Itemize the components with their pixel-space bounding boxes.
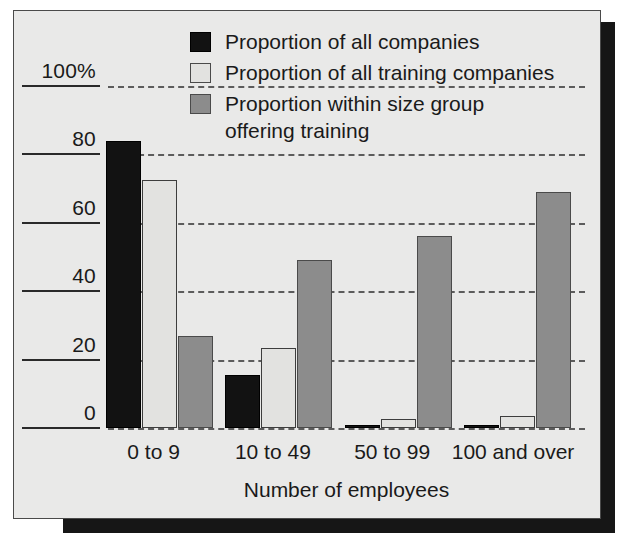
- legend-item-proportion-of-all-training-companies: Proportion of all training companies: [190, 59, 554, 88]
- legend-swatch-series-2: [190, 63, 211, 83]
- y-axis-tick-80: 80: [22, 127, 100, 155]
- x-axis-tick-label-50-to-99: 50 to 99: [333, 440, 452, 464]
- x-axis-title: Number of employees: [108, 478, 585, 502]
- chart-legend: Proportion of all companies Proportion o…: [190, 28, 554, 145]
- gridline-80: [108, 154, 585, 156]
- y-axis-tick-label: 100%: [22, 59, 100, 85]
- y-axis-tick-rule: [22, 427, 100, 429]
- legend-item-proportion-of-all-companies: Proportion of all companies: [190, 28, 554, 57]
- bar-50-to-99-series-2: [381, 419, 416, 428]
- y-axis-tick-label: 80: [22, 127, 100, 153]
- bar-10-to-49-series-2: [261, 348, 296, 428]
- x-axis-tick-label-0-to-9: 0 to 9: [94, 440, 213, 464]
- bar-0-to-9-series-1: [106, 141, 141, 428]
- y-axis-tick-label: 20: [22, 333, 100, 359]
- legend-item-proportion-within-size-group-offering-training: Proportion within size group: [190, 90, 554, 119]
- y-axis-tick-rule: [22, 290, 100, 292]
- y-axis-tick-label: 0: [22, 401, 100, 427]
- legend-label-series-3: Proportion within size group: [225, 90, 484, 118]
- bar-0-to-9-series-3: [178, 336, 213, 428]
- y-axis-tick-label: 60: [22, 196, 100, 222]
- bar-10-to-49-series-3: [297, 260, 332, 428]
- bar-100-and-over-series-3: [536, 192, 571, 428]
- y-axis-tick-60: 60: [22, 196, 100, 224]
- bar-chart-figure: 100%8060402000 to 910 to 4950 to 99100 a…: [0, 0, 624, 543]
- legend-swatch-series-3: [190, 94, 211, 114]
- y-axis-tick-rule: [22, 222, 100, 224]
- bar-100-and-over-series-2: [500, 416, 535, 428]
- y-axis-tick-20: 20: [22, 333, 100, 361]
- y-axis-tick-100pct: 100%: [22, 59, 100, 87]
- y-axis-tick-rule: [22, 85, 100, 87]
- legend-label-series-2: Proportion of all training companies: [225, 59, 554, 87]
- bar-10-to-49-series-1: [225, 375, 260, 428]
- y-axis-tick-40: 40: [22, 264, 100, 292]
- y-axis-tick-rule: [22, 153, 100, 155]
- y-axis-tick-rule: [22, 359, 100, 361]
- legend-swatch-series-1: [190, 32, 211, 52]
- legend-label-series-3-line2: offering training: [225, 117, 554, 145]
- bar-50-to-99-series-3: [417, 236, 452, 428]
- x-axis-tick-label-100-and-over: 100 and over: [452, 440, 571, 464]
- axis-baseline: [108, 428, 585, 430]
- x-axis-tick-label-10-to-49: 10 to 49: [213, 440, 332, 464]
- y-axis-tick-0: 0: [22, 401, 100, 429]
- gridline-40: [108, 291, 585, 293]
- y-axis-tick-label: 40: [22, 264, 100, 290]
- bar-50-to-99-series-1: [345, 425, 380, 428]
- legend-label-series-1: Proportion of all companies: [225, 28, 479, 56]
- bar-100-and-over-series-1: [464, 425, 499, 428]
- gridline-60: [108, 223, 585, 225]
- bar-0-to-9-series-2: [142, 180, 177, 428]
